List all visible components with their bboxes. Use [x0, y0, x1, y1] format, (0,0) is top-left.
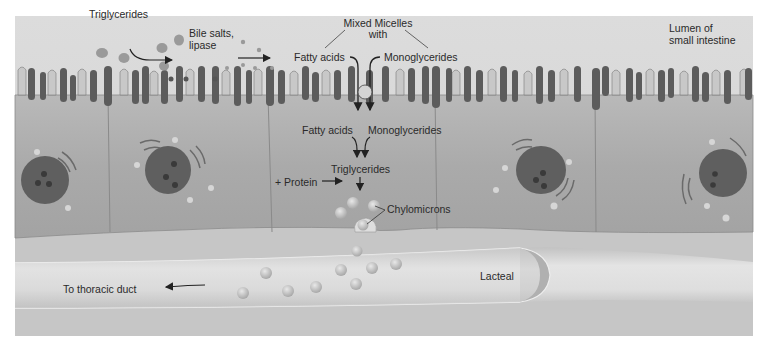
lipid-absorption-diagram: Triglycerides Bile salts, lipase Mixed M… — [0, 0, 765, 346]
label-fatty-acids-lumen: Fatty acids — [294, 51, 345, 63]
label-lumen-of: Lumen of — [669, 22, 713, 34]
label-monoglycerides-cell: Monoglycerides — [368, 124, 442, 136]
label-chylomicrons: Chylomicrons — [387, 203, 451, 215]
label-lipase: lipase — [189, 39, 216, 51]
label-with: with — [338, 28, 418, 40]
label-monoglycerides-lumen: Monoglycerides — [384, 51, 458, 63]
label-protein: + Protein — [275, 176, 317, 188]
label-small-intestine: small intestine — [669, 34, 736, 46]
label-lacteal: Lacteal — [480, 270, 514, 282]
label-to-thoracic-duct: To thoracic duct — [63, 283, 137, 295]
label-bile-salts: Bile salts, — [189, 27, 234, 39]
micelle-icon — [358, 85, 372, 99]
label-triglycerides-lumen: Triglycerides — [89, 8, 148, 20]
label-triglycerides-cell: Triglycerides — [331, 163, 390, 175]
label-fatty-acids-cell: Fatty acids — [302, 124, 353, 136]
